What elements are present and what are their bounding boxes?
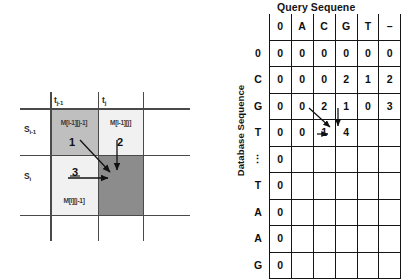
grid-vline-mid [98, 92, 100, 241]
matrix-column-header: G [335, 14, 357, 40]
matrix-cell: 2 [379, 67, 401, 94]
matrix-cell: 0 [357, 93, 379, 120]
grid-vline-right [143, 92, 145, 241]
matrix-cell [313, 252, 335, 279]
matrix-cell [357, 199, 379, 226]
matrix-column-header: A [291, 14, 313, 40]
matrix-cell [291, 226, 313, 253]
dp-recurrence-diagram: tj-1 tj Si-1 Si M[i-1][j-1] M[i-1][j] M[… [0, 0, 225, 278]
matrix-cell [291, 199, 313, 226]
matrix-cell [313, 199, 335, 226]
row-header-s-cur-sub: i [29, 176, 30, 182]
matrix-row: A0 [247, 226, 401, 253]
matrix-cell: 0 [379, 40, 401, 67]
matrix-cell [379, 120, 401, 147]
matrix-cell [313, 173, 335, 200]
matrix-row-header: 0 [247, 40, 270, 67]
matrix-cell: 1 [313, 120, 335, 147]
cell-label-m-i-j1: M[i][j-1] [50, 197, 98, 204]
matrix-cell: 0 [313, 40, 335, 67]
matrix-column-header: T [357, 14, 379, 40]
matrix-row-header: ⋮ [247, 146, 270, 173]
query-sequence-title: Query Sequene [277, 1, 355, 13]
matrix-cell [313, 226, 335, 253]
matrix-row-header: T [247, 120, 270, 147]
matrix-cell: 0 [270, 252, 292, 279]
matrix-column-header: – [379, 14, 401, 40]
matrix-cell [335, 226, 357, 253]
matrix-cell: 0 [291, 40, 313, 67]
matrix-cell: 0 [291, 67, 313, 94]
matrix-cell [335, 173, 357, 200]
matrix-cell [291, 173, 313, 200]
matrix-cell: 0 [291, 93, 313, 120]
matrix-row: G0 [247, 252, 401, 279]
matrix-cell: 0 [270, 40, 292, 67]
matrix-cell [379, 173, 401, 200]
matrix-row: C000212 [247, 67, 401, 94]
grid-hline-mid [20, 155, 190, 157]
matrix-cell: 0 [270, 146, 292, 173]
matrix-cell [291, 252, 313, 279]
matrix-cell: 4 [335, 120, 357, 147]
matrix-cell [357, 252, 379, 279]
matrix-row-header: A [247, 199, 270, 226]
matrix-row: ⋮0 [247, 146, 401, 173]
matrix-row-header: A [247, 226, 270, 253]
column-header-t-prev: tj-1 [54, 95, 63, 105]
matrix-cell: 0 [270, 199, 292, 226]
row-header-s-cur: Si [24, 171, 31, 181]
column-header-t-cur-sub: j [105, 100, 106, 106]
matrix-cell: 1 [357, 67, 379, 94]
matrix-cell [335, 199, 357, 226]
matrix-cell: 2 [335, 67, 357, 94]
grid-hline-top [20, 108, 190, 110]
matrix-cell [357, 226, 379, 253]
arrow-number-3: 3 [72, 166, 78, 178]
matrix-row-header: T [247, 173, 270, 200]
alignment-matrix-panel: Query Sequene Database Sequence 0ACGT–00… [225, 0, 401, 278]
matrix-cell [291, 146, 313, 173]
grid-hline-bottom [20, 215, 190, 217]
matrix-row: G002103 [247, 93, 401, 120]
matrix-cell: 0 [335, 40, 357, 67]
cell-m-i-j1 [50, 155, 98, 215]
matrix-cell [357, 173, 379, 200]
matrix-corner-cell [247, 14, 270, 40]
matrix-cell: 3 [379, 93, 401, 120]
column-header-t-cur: tj [102, 95, 106, 105]
cell-m-i1-j1 [50, 109, 98, 155]
matrix-cell: 0 [357, 40, 379, 67]
matrix-cell: 0 [270, 120, 292, 147]
grid-vline-left [50, 92, 52, 241]
matrix-cell: 1 [335, 93, 357, 120]
cell-m-i-j [98, 155, 143, 215]
matrix-cell: 0 [270, 226, 292, 253]
cell-m-i1-j [98, 109, 143, 155]
row-header-s-prev: Si-1 [24, 124, 36, 134]
matrix-cell: 0 [270, 93, 292, 120]
matrix-cell [313, 146, 335, 173]
matrix-cell [379, 252, 401, 279]
cell-label-m-i1-j: M[i-1][j] [98, 119, 143, 126]
matrix-row-header: G [247, 252, 270, 279]
matrix-row: T0014 [247, 120, 401, 147]
database-sequence-label: Database Sequence [235, 75, 246, 187]
matrix-row: T0 [247, 173, 401, 200]
matrix-row-header: G [247, 93, 270, 120]
score-matrix-table: 0ACGT–0000000C000212G002103T0014⋮0T0A0A0… [247, 14, 401, 279]
arrow-number-1: 1 [69, 136, 75, 148]
matrix-row: 0000000 [247, 40, 401, 67]
matrix-cell: 0 [270, 67, 292, 94]
matrix-cell: 0 [291, 120, 313, 147]
row-header-s-prev-sub: i-1 [29, 129, 35, 135]
matrix-cell [379, 146, 401, 173]
cell-label-m-i1-j1: M[i-1][j-1] [50, 119, 98, 126]
matrix-cell: 2 [313, 93, 335, 120]
matrix-cell [379, 226, 401, 253]
matrix-column-header: C [313, 14, 335, 40]
matrix-cell [357, 146, 379, 173]
matrix-cell [335, 252, 357, 279]
matrix-row-header: C [247, 67, 270, 94]
matrix-cell [379, 199, 401, 226]
